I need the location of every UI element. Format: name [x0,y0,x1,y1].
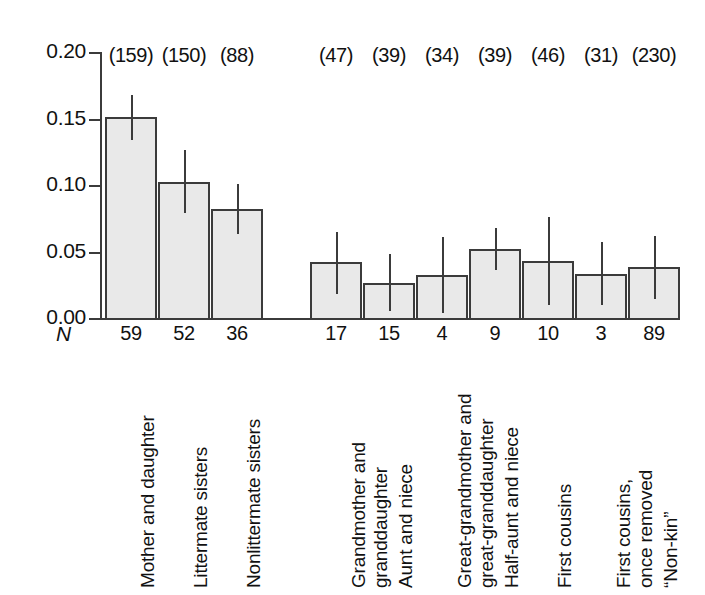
category-label-line: Half-aunt and niece [501,427,523,588]
y-axis-line [100,52,102,318]
category-label: Great-grandmother andgreat-granddaughter [454,394,498,588]
category-label: First cousins [554,484,576,588]
n-row-header: N [56,322,71,346]
category-label: Grandmother andgranddaughter [348,442,392,588]
error-bar [184,150,186,213]
category-label-line: First cousins, [613,470,635,588]
category-label-line: once removed [635,470,657,588]
y-axis-tick-label: 0.10 [28,172,86,196]
bar[interactable] [105,117,157,320]
observations-count-label: (88) [201,44,273,67]
category-label-line: granddaughter [370,442,392,588]
y-axis-tick [89,119,100,121]
error-bar [601,242,603,305]
y-axis-tick [89,252,100,254]
y-axis-tick [89,318,100,320]
observations-count-label: (230) [618,44,690,67]
category-label-line: Mother and daughter [137,415,159,588]
category-label-line: Aunt and niece [395,464,417,588]
category-label: Aunt and niece [395,464,417,588]
error-bar [237,184,239,235]
category-label-line: Nonlittermate sisters [243,419,265,588]
category-label: Half-aunt and niece [501,427,523,588]
n-pairs-label: 36 [201,322,273,345]
error-bar [336,232,338,295]
error-bar [495,228,497,271]
category-label-line: great-granddaughter [476,394,498,588]
category-label-line: “Non-kin” [660,512,682,588]
category-label: First cousins,once removed [613,470,657,588]
n-pairs-label: 89 [618,322,690,345]
bar-chart-figure: 0.000.050.100.150.20(159)59Mother and da… [0,0,705,595]
y-axis-tick [89,185,100,187]
error-bar [442,237,444,313]
category-label: Mother and daughter [137,415,159,588]
category-label-line: Great-grandmother and [454,394,476,588]
y-axis-tick-label: 0.20 [28,39,86,63]
error-bar [654,236,656,300]
y-axis-tick-label: 0.05 [28,239,86,263]
error-bar [131,95,133,140]
category-label: Littermate sisters [190,447,212,588]
error-bar [548,217,550,305]
category-label-line: First cousins [554,484,576,588]
error-bar [389,254,391,311]
category-label: “Non-kin” [660,512,682,588]
category-label: Nonlittermate sisters [243,419,265,588]
y-axis-tick-label: 0.15 [28,106,86,130]
category-label-line: Littermate sisters [190,447,212,588]
category-label-line: Grandmother and [348,442,370,588]
